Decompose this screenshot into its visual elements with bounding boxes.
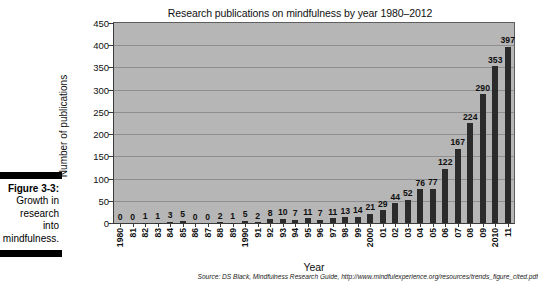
x-tick-mark bbox=[408, 223, 409, 227]
x-tick-slot: 96 bbox=[314, 223, 327, 261]
bar-slot: 0 bbox=[127, 23, 140, 223]
bar[interactable] bbox=[367, 214, 373, 223]
x-tick-slot: 82 bbox=[139, 223, 152, 261]
x-tick-slot: 2010 bbox=[489, 223, 502, 261]
x-tick-slot: 08 bbox=[464, 223, 477, 261]
x-tick-label: 93 bbox=[278, 228, 288, 238]
x-tick-mark bbox=[170, 223, 171, 227]
x-tick-mark bbox=[358, 223, 359, 227]
x-tick-slot: 87 bbox=[202, 223, 215, 261]
x-tick-mark bbox=[220, 223, 221, 227]
bar[interactable] bbox=[430, 189, 436, 223]
x-tick-mark bbox=[433, 223, 434, 227]
bar-value-label: 10 bbox=[278, 208, 288, 217]
bar-value-label: 52 bbox=[403, 189, 413, 198]
x-tick-mark bbox=[258, 223, 259, 227]
bar-slot: 44 bbox=[389, 23, 402, 223]
x-tick-slot: 1990 bbox=[239, 223, 252, 261]
y-tick-mark bbox=[108, 112, 113, 113]
x-tick-slot: 91 bbox=[252, 223, 265, 261]
x-tick-mark bbox=[333, 223, 334, 227]
x-tick-label: 89 bbox=[228, 228, 238, 238]
x-tick-label: 86 bbox=[190, 228, 200, 238]
bar[interactable] bbox=[480, 94, 486, 223]
x-tick-label: 95 bbox=[303, 228, 313, 238]
x-tick-slot: 2000 bbox=[364, 223, 377, 261]
x-tick-slot: 93 bbox=[277, 223, 290, 261]
bar-slot: 0 bbox=[189, 23, 202, 223]
x-tick-mark bbox=[370, 223, 371, 227]
y-tick-mark bbox=[108, 201, 113, 202]
bar[interactable] bbox=[442, 169, 448, 223]
x-tick-slot: 11 bbox=[502, 223, 515, 261]
y-tick-label: 350 bbox=[69, 62, 109, 73]
x-tick-mark bbox=[383, 223, 384, 227]
x-tick-label: 91 bbox=[253, 228, 263, 238]
bar-value-label: 29 bbox=[378, 200, 388, 209]
bar-value-label: 397 bbox=[501, 36, 515, 45]
x-tick-label: 94 bbox=[290, 228, 300, 238]
bar-slot: 3 bbox=[164, 23, 177, 223]
bar[interactable] bbox=[380, 210, 386, 223]
bar[interactable] bbox=[455, 149, 461, 223]
x-tick-mark bbox=[320, 223, 321, 227]
y-tick-mark bbox=[108, 23, 113, 24]
bar-value-label: 353 bbox=[488, 56, 502, 65]
bar-value-label: 224 bbox=[463, 113, 477, 122]
x-tick-label: 82 bbox=[140, 228, 150, 238]
x-tick-label: 07 bbox=[453, 228, 463, 238]
caption-line-1: Growth in bbox=[0, 195, 59, 207]
bar-slot: 11 bbox=[327, 23, 340, 223]
bar-value-label: 122 bbox=[438, 158, 452, 167]
bar[interactable] bbox=[492, 66, 498, 223]
bar-value-label: 44 bbox=[390, 193, 400, 202]
y-tick-label: 400 bbox=[69, 40, 109, 51]
bar-slot: 13 bbox=[339, 23, 352, 223]
y-tick-label: 200 bbox=[69, 129, 109, 140]
x-tick-label: 08 bbox=[465, 228, 475, 238]
bar-slot: 2 bbox=[214, 23, 227, 223]
x-tick-label: 01 bbox=[378, 228, 388, 238]
bar-value-label: 167 bbox=[451, 138, 465, 147]
bar-value-label: 7 bbox=[293, 209, 298, 218]
x-tick-slot: 97 bbox=[327, 223, 340, 261]
bar-slot: 8 bbox=[264, 23, 277, 223]
bar-value-label: 7 bbox=[318, 209, 323, 218]
bar[interactable] bbox=[405, 200, 411, 223]
bar-value-label: 21 bbox=[365, 203, 375, 212]
bar-slot: 21 bbox=[364, 23, 377, 223]
y-tick-mark bbox=[108, 223, 113, 224]
bar-slot: 14 bbox=[352, 23, 365, 223]
y-tick-mark bbox=[108, 134, 113, 135]
x-tick-mark bbox=[195, 223, 196, 227]
x-tick-mark bbox=[420, 223, 421, 227]
bar-value-label: 77 bbox=[428, 178, 438, 187]
x-tick-slot: 94 bbox=[289, 223, 302, 261]
bar-slot: 397 bbox=[502, 23, 515, 223]
bar-value-label: 1 bbox=[155, 212, 160, 221]
x-tick-mark bbox=[208, 223, 209, 227]
bar-slot: 2 bbox=[252, 23, 265, 223]
x-tick-label: 98 bbox=[340, 228, 350, 238]
bar[interactable] bbox=[467, 123, 473, 223]
y-tick-label: 50 bbox=[69, 195, 109, 206]
bar-value-label: 14 bbox=[353, 206, 363, 215]
x-tick-slot: 01 bbox=[377, 223, 390, 261]
bar-slot: 29 bbox=[377, 23, 390, 223]
y-axis-title: Number of publications bbox=[58, 56, 69, 196]
x-tick-label: 85 bbox=[178, 228, 188, 238]
bar-slot: 5 bbox=[177, 23, 190, 223]
bar-chart: Research publications on mindfulness by … bbox=[62, 0, 538, 292]
bar[interactable] bbox=[392, 203, 398, 223]
chart-title: Research publications on mindfulness by … bbox=[62, 7, 538, 19]
bar-slot: 224 bbox=[464, 23, 477, 223]
bar-slot: 0 bbox=[114, 23, 127, 223]
x-tick-label: 92 bbox=[265, 228, 275, 238]
x-tick-mark bbox=[233, 223, 234, 227]
bar[interactable] bbox=[417, 189, 423, 223]
y-tick-label: 0 bbox=[69, 218, 109, 229]
figure-number: Figure 3-3: bbox=[0, 183, 59, 195]
x-tick-slot: 95 bbox=[302, 223, 315, 261]
bar[interactable] bbox=[505, 47, 511, 223]
bar-value-label: 0 bbox=[193, 213, 198, 222]
